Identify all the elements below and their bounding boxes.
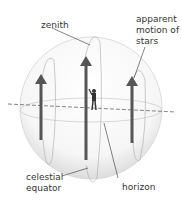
celestial-equator-label-line1: celestial (26, 172, 63, 183)
apparent-motion-label-line1: apparent (136, 14, 177, 25)
celestial-equator-label-line2: equator (26, 183, 61, 194)
horizon-label: horizon (122, 182, 155, 193)
apparent-motion-label-line2: motion of (136, 25, 179, 36)
apparent-motion-label-line3: stars (136, 36, 158, 47)
zenith-label: zenith (41, 20, 69, 31)
